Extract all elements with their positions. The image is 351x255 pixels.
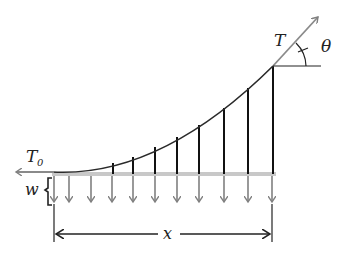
cable-diagram: T θ T 0 w x — [0, 0, 351, 255]
angle-label: θ — [321, 36, 331, 56]
hangers — [113, 66, 273, 174]
load-arrows — [54, 176, 272, 202]
load-label: w — [25, 180, 39, 199]
angle-arc — [296, 43, 306, 66]
tension-end-label: T — [274, 30, 287, 50]
span-label: x — [163, 224, 172, 243]
load-brace — [45, 178, 52, 205]
tension-origin-subscript: 0 — [37, 157, 44, 168]
cable-curve — [52, 66, 273, 172]
